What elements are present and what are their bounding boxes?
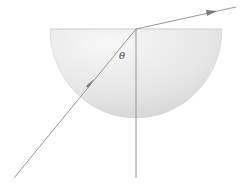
refracted-ray [136,7,236,29]
refracted-arrow-icon [206,10,217,16]
refraction-diagram [0,0,241,188]
angle-theta-label: θ [119,50,125,61]
